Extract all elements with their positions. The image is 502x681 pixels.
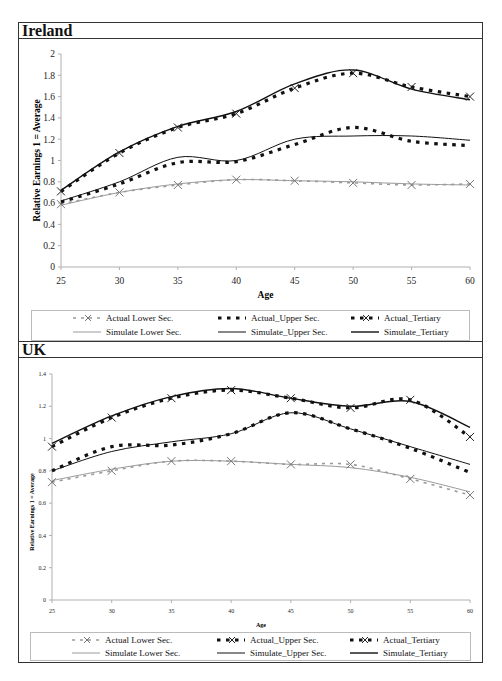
x-tick-label: 25	[49, 608, 55, 614]
y-axis-title: Relative Earnings 1 = Average	[29, 473, 35, 551]
x-tick-label: 30	[109, 608, 115, 614]
x-tick-label: 45	[288, 608, 294, 614]
y-tick-label: 0.4	[39, 533, 47, 539]
y-tick-label: 1.4	[39, 371, 47, 377]
x-tick-label: 55	[407, 608, 413, 614]
y-tick-label: 0	[43, 597, 46, 603]
uk-plot: 00.20.40.60.811.21.42530354045505560AgeR…	[29, 371, 474, 628]
x-tick-label: 50	[348, 608, 354, 614]
y-tick-label: 1.2	[39, 403, 47, 409]
series-actual-tertiary	[52, 390, 470, 447]
series-actual-lower-sec-	[52, 460, 470, 495]
x-axis-title: Age	[256, 622, 266, 628]
y-tick-label: 1	[43, 436, 46, 442]
x-tick-label: 40	[228, 608, 234, 614]
y-tick-label: 0.2	[39, 565, 47, 571]
x-tick-label: 60	[467, 608, 473, 614]
y-tick-label: 0.8	[39, 468, 47, 474]
x-tick-label: 35	[168, 608, 174, 614]
y-tick-label: 0.6	[39, 500, 47, 506]
uk-chart: 00.20.40.60.811.21.42530354045505560AgeR…	[0, 0, 502, 681]
